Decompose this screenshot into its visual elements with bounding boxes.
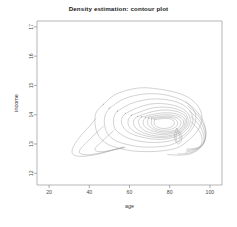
contour-lines — [72, 88, 206, 157]
plot-frame — [37, 21, 222, 185]
x-tick-label: 40 — [86, 189, 92, 195]
contour-ring — [113, 99, 192, 143]
y-tick-label: 13 — [28, 141, 34, 147]
y-tick-label: 15 — [28, 82, 34, 88]
x-tick-label: 20 — [46, 189, 52, 195]
contour-ring — [139, 113, 186, 135]
contour-tail — [72, 119, 125, 156]
contour-ring — [128, 107, 188, 138]
y-tick-label: 12 — [28, 170, 34, 176]
x-axis-label: age — [125, 203, 134, 209]
contour-ring — [133, 110, 186, 136]
y-tick-label: 17 — [28, 24, 34, 30]
y-tick-label: 14 — [28, 112, 34, 118]
y-axis-label: income — [13, 94, 19, 111]
x-tick-label: 60 — [127, 189, 133, 195]
contour-ring — [154, 119, 174, 129]
plot-box — [37, 21, 222, 185]
contour-plot-figure: Density estimation: contour plot 2040608… — [0, 0, 237, 227]
axis-tick-labels: 20406080100121314151617ageincome — [13, 24, 214, 209]
plot-area: 20406080100121314151617ageincome — [0, 0, 237, 227]
axis-ticks — [34, 27, 210, 188]
contour-tail — [95, 131, 123, 152]
x-tick-label: 100 — [206, 189, 215, 195]
y-tick-label: 16 — [28, 53, 34, 59]
contour-ring — [104, 94, 196, 148]
contour-ring — [95, 88, 202, 152]
contour-tail — [79, 126, 123, 154]
contour-right-flank — [186, 111, 205, 152]
x-tick-label: 80 — [167, 189, 173, 195]
